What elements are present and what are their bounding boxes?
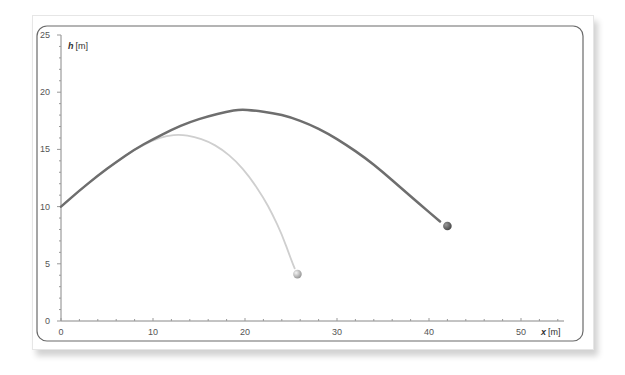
x-axis-title: x[m] [540, 327, 561, 337]
series-layer [61, 110, 452, 279]
x-tick-label: 20 [240, 327, 250, 337]
x-tick-label: 50 [516, 327, 526, 337]
x-tick-label: 10 [148, 327, 158, 337]
trajectory-low-line [61, 135, 295, 268]
y-tick-label: 20 [40, 87, 50, 97]
x-tick-label: 0 [58, 327, 63, 337]
x-tick-label: 30 [332, 327, 342, 337]
y-axis-title: h[m] [68, 41, 88, 51]
y-axis-ticks: 0510152025 [40, 30, 61, 326]
plot-frame [37, 26, 583, 341]
y-tick-label: 10 [40, 202, 50, 212]
trajectory-high-line [61, 110, 440, 222]
y-tick-label: 5 [45, 259, 50, 269]
y-tick-label: 15 [40, 144, 50, 154]
trajectory-chart: 0510152025 01020304050 h[m] x[m] [0, 0, 625, 375]
y-tick-label: 0 [45, 316, 50, 326]
trajectory-high-ball-marker [443, 222, 452, 231]
x-tick-label: 40 [424, 327, 434, 337]
y-tick-label: 25 [40, 30, 50, 40]
trajectory-low-ball-marker [293, 270, 302, 279]
